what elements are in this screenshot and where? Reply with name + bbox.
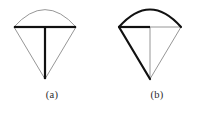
cone-diagram-b: [105, 0, 209, 88]
figure-caption-b: (b): [105, 88, 209, 101]
cone-left-slant-b: [119, 27, 150, 79]
canopy-arc-b: [119, 10, 181, 28]
cone-right-slant-a: [45, 27, 76, 79]
cone-right-slant-b: [150, 27, 181, 79]
figure-panel-b: (b): [105, 0, 209, 113]
cone-diagram-a: [0, 0, 104, 88]
figure-sheet: (a) (b): [0, 0, 209, 113]
cone-left-slant-a: [14, 27, 45, 79]
figure-caption-a: (a): [0, 88, 104, 101]
figure-panel-a: (a): [0, 0, 104, 113]
canopy-arc-a: [14, 10, 76, 28]
